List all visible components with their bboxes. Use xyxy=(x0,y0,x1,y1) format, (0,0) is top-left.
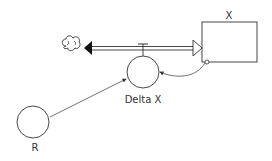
flow-arrowhead-icon xyxy=(84,41,92,55)
stock-x-label: X xyxy=(226,10,233,21)
auxiliary-r-label: R xyxy=(32,142,39,153)
stock-flow-diagram: X Delta X R xyxy=(0,0,272,161)
connector-x-to-delta-x[interactable] xyxy=(160,63,205,76)
flow-delta-x-label: Delta X xyxy=(125,94,162,105)
flow-delta-x-node[interactable] xyxy=(127,56,159,88)
flow-hollow-arrow-icon xyxy=(193,40,202,56)
connector-origin-dot xyxy=(205,60,209,64)
stock-x[interactable] xyxy=(202,22,257,62)
auxiliary-r-node[interactable] xyxy=(17,106,49,138)
connector-r-to-delta-x[interactable] xyxy=(50,79,126,117)
cloud-icon xyxy=(62,36,80,51)
